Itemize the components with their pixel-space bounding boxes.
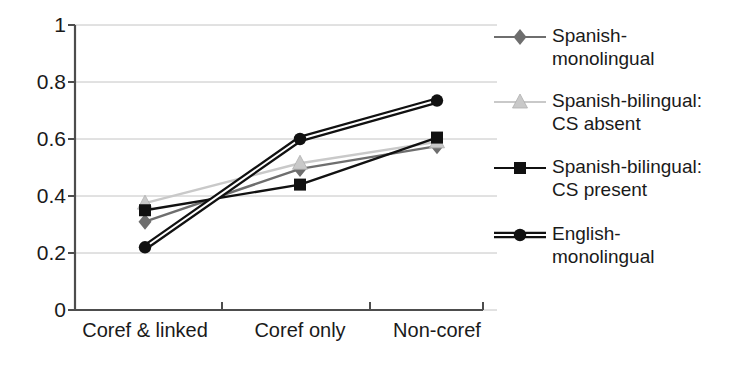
legend-sample-swatch bbox=[492, 26, 548, 48]
legend-sample-swatch bbox=[492, 91, 548, 113]
y-axis-tick-labels: 00.20.40.60.81 bbox=[0, 0, 66, 367]
x-axis-tick-labels: Coref & linkedCoref onlyNon-coref bbox=[0, 318, 500, 358]
legend-label: Spanish-bilingual: CS present bbox=[552, 155, 702, 201]
legend-sample-swatch bbox=[492, 157, 548, 179]
chart-figure: 00.20.40.60.81 Coref & linkedCoref onlyN… bbox=[0, 0, 741, 367]
data-point-square bbox=[139, 204, 151, 216]
legend-marker-triangle-icon bbox=[492, 91, 548, 113]
y-axis-tick-label: 0.4 bbox=[37, 185, 66, 206]
legend-item[interactable]: Spanish- monolingual bbox=[492, 24, 654, 70]
x-axis-category-label: Coref & linked bbox=[82, 318, 208, 342]
y-axis-tick-label: 0.2 bbox=[37, 242, 66, 263]
legend-marker-circle bbox=[514, 229, 526, 241]
y-axis-tick-label: 1 bbox=[54, 14, 66, 35]
legend-marker-square bbox=[514, 162, 526, 174]
legend-item[interactable]: English- monolingual bbox=[492, 222, 654, 268]
series-group bbox=[138, 94, 445, 253]
data-point-circle bbox=[139, 241, 151, 253]
series-3 bbox=[139, 94, 443, 253]
series-line bbox=[145, 146, 437, 222]
legend-marker-square-icon bbox=[492, 157, 548, 179]
legend-marker-diamond bbox=[514, 29, 527, 45]
legend-marker-diamond-icon bbox=[492, 26, 548, 48]
legend-label: English- monolingual bbox=[552, 222, 654, 268]
legend-marker-circle-icon bbox=[492, 224, 548, 246]
data-point-square bbox=[294, 179, 306, 191]
plot-area: 00.20.40.60.81 Coref & linkedCoref onlyN… bbox=[0, 0, 500, 367]
y-axis-tick-label: 0 bbox=[54, 299, 66, 320]
y-axis-tick-label: 0.6 bbox=[37, 128, 66, 149]
data-point-square bbox=[431, 132, 443, 144]
chart-canvas bbox=[0, 0, 500, 367]
legend-item[interactable]: Spanish-bilingual: CS present bbox=[492, 155, 702, 201]
x-axis-category-label: Coref only bbox=[254, 318, 345, 342]
legend-item[interactable]: Spanish-bilingual: CS absent bbox=[492, 89, 702, 135]
x-axis-category-label: Non-coref bbox=[393, 318, 481, 342]
legend-sample-swatch bbox=[492, 224, 548, 246]
series-line-inner bbox=[145, 101, 437, 248]
legend-label: Spanish- monolingual bbox=[552, 24, 654, 70]
data-point-circle bbox=[431, 94, 443, 106]
y-axis-tick-label: 0.8 bbox=[37, 71, 66, 92]
chart-legend: Spanish- monolingualSpanish-bilingual: C… bbox=[492, 24, 741, 314]
series-line-outer bbox=[145, 101, 437, 248]
legend-label: Spanish-bilingual: CS absent bbox=[552, 89, 702, 135]
data-point-circle bbox=[294, 133, 306, 145]
